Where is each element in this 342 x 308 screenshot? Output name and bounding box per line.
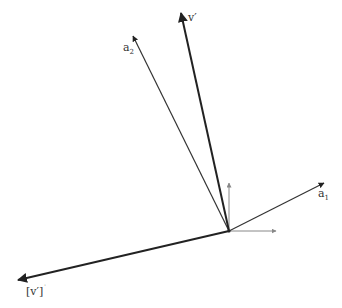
label-a2-sub: 2 bbox=[130, 48, 134, 56]
origin-point bbox=[227, 229, 230, 232]
label-a2: a2 bbox=[123, 42, 134, 56]
label-a1-sub: 1 bbox=[325, 194, 329, 202]
vector-v-prime-perp bbox=[18, 231, 229, 280]
label-a1: a1 bbox=[318, 188, 329, 202]
label-v-prime: v′ bbox=[188, 12, 197, 23]
vector-a1 bbox=[229, 183, 324, 231]
diagram-svg bbox=[0, 0, 342, 308]
vector-diagram: v′ a2 a1 [v′]˙ bbox=[0, 0, 342, 308]
label-v-perp-base: [v′] bbox=[26, 285, 43, 298]
label-v-perp-sup: ˙ bbox=[43, 284, 47, 292]
label-v-prime-perp: [v′]˙ bbox=[26, 285, 47, 297]
vector-a2 bbox=[133, 36, 229, 231]
vector-v-prime bbox=[181, 13, 229, 231]
label-v-prime-text: v′ bbox=[188, 11, 197, 24]
